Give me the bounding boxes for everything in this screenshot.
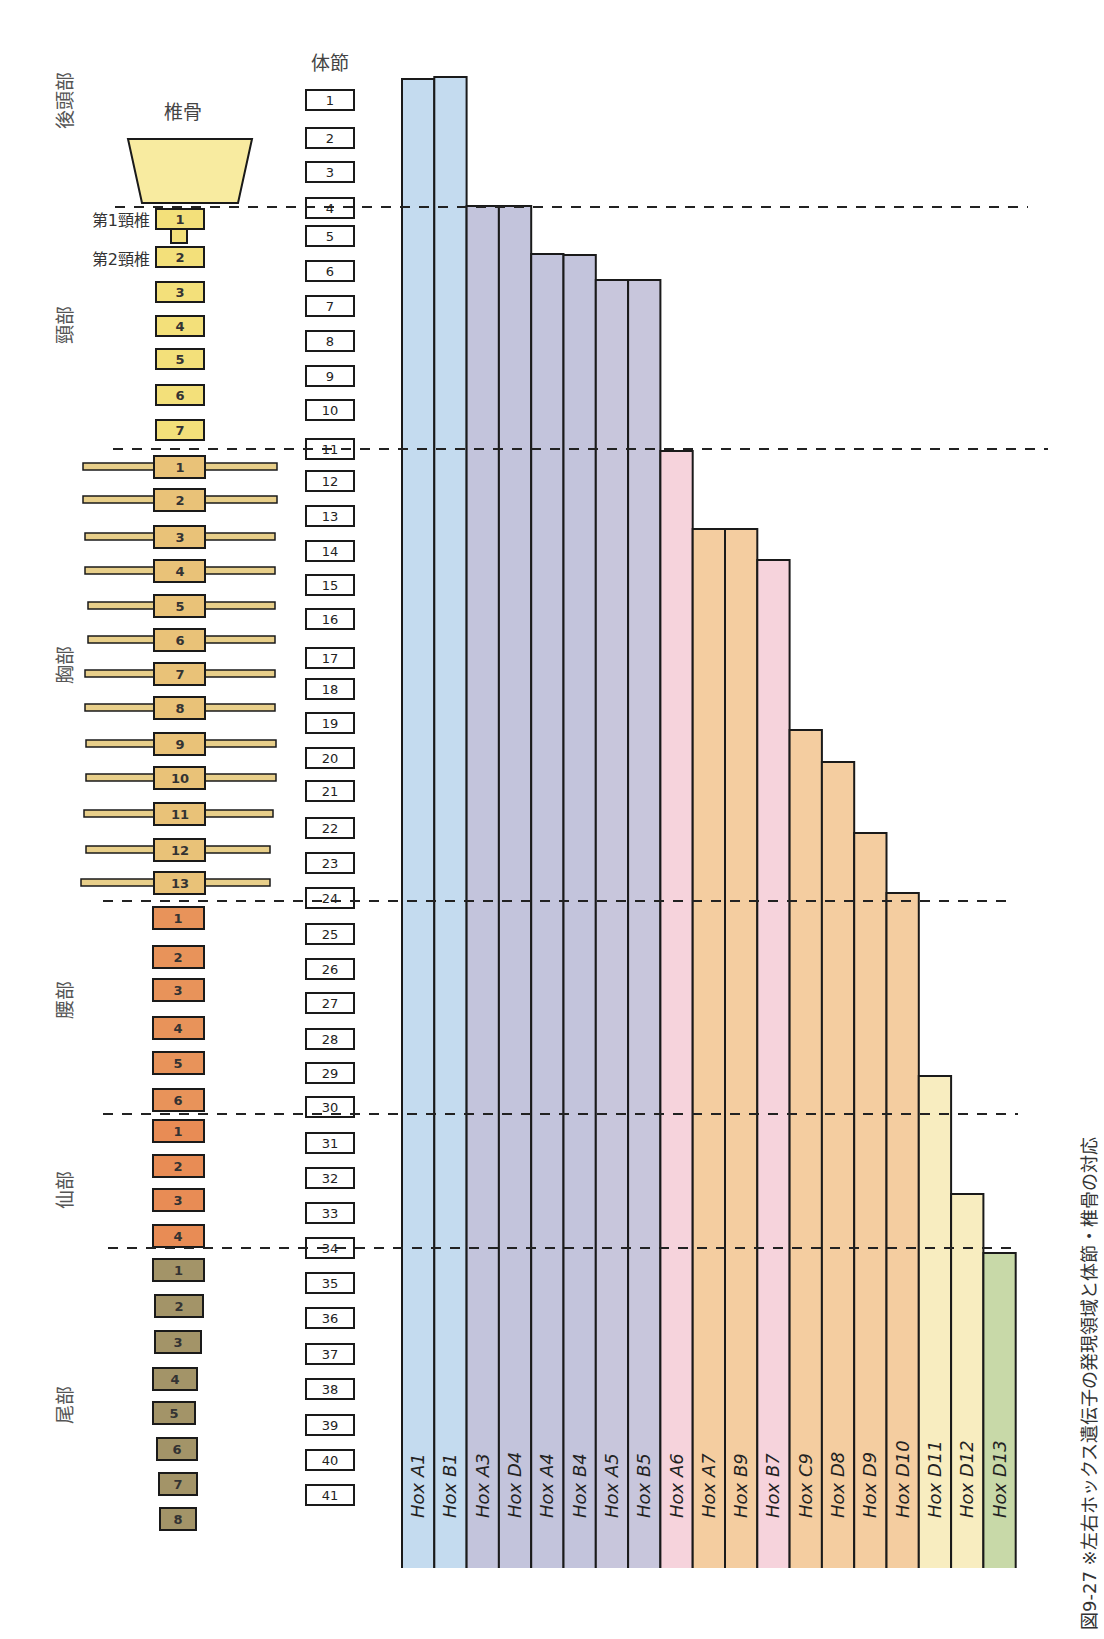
segment-number: 39 (322, 1418, 339, 1433)
sacral-vertebra: 2 (153, 1155, 204, 1177)
segment-number: 9 (326, 369, 334, 384)
lumbar-vertebra: 2 (153, 946, 204, 968)
gene-label: Hox D10 (892, 1440, 913, 1518)
thoracic-vertebra: 11 (84, 803, 273, 825)
region-label: 後頭部 (54, 72, 76, 129)
vertebra-number: 2 (174, 1299, 183, 1314)
segment-box: 17 (306, 648, 354, 668)
gene-label: Hox B5 (633, 1453, 654, 1518)
vertebra-number: 7 (175, 423, 184, 438)
vertebra-number: 1 (173, 911, 182, 926)
vertebra-column: 1234567123456789101112131234561234123456… (81, 209, 277, 1530)
hox-bar: Hox D9 (854, 833, 886, 1568)
segment-box: 9 (306, 366, 354, 386)
segment-box: 32 (306, 1168, 354, 1188)
segment-box: 14 (306, 541, 354, 561)
vertebra-number: 5 (169, 1406, 178, 1421)
segment-box: 40 (306, 1450, 354, 1470)
vertebra-number: 12 (171, 843, 189, 858)
gene-label: Hox B1 (439, 1453, 460, 1518)
hox-bar: Hox A3 (467, 206, 499, 1568)
hox-bar: Hox D11 (919, 1076, 951, 1568)
vertebra-number: 2 (175, 250, 184, 265)
segment-number: 7 (326, 299, 334, 314)
gene-label: Hox D13 (989, 1440, 1010, 1518)
caudal-vertebra: 6 (157, 1438, 197, 1460)
thoracic-vertebra: 12 (86, 839, 270, 861)
caudal-vertebra: 2 (155, 1295, 203, 1317)
vertebra-number: 1 (175, 212, 184, 227)
cervical-vertebra: 1 (156, 209, 204, 243)
segment-number: 35 (322, 1276, 339, 1291)
hox-bars: Hox A1Hox B1Hox A3Hox D4Hox A4Hox B4Hox … (402, 77, 1016, 1568)
segment-number: 25 (322, 927, 339, 942)
segment-number: 19 (322, 716, 339, 731)
vertebra-number: 11 (171, 807, 189, 822)
hox-bar: Hox A6 (660, 451, 692, 1568)
segment-number: 8 (326, 334, 334, 349)
segment-number: 24 (322, 891, 339, 906)
gene-label: Hox B9 (730, 1453, 751, 1518)
segment-box: 2 (306, 128, 354, 148)
segment-number: 1 (326, 93, 334, 108)
vertebra-number: 4 (175, 319, 184, 334)
gene-label: Hox A3 (472, 1453, 493, 1518)
sacral-vertebra: 3 (153, 1189, 204, 1211)
thoracic-vertebra: 7 (85, 663, 275, 685)
segment-box: 27 (306, 993, 354, 1013)
sacral-vertebra: 1 (153, 1120, 204, 1142)
gene-label: Hox C9 (795, 1453, 816, 1518)
vertebra-number: 4 (173, 1021, 182, 1036)
region-label: 仙部 (54, 1171, 76, 1209)
segment-number: 37 (322, 1347, 339, 1362)
segment-box: 18 (306, 679, 354, 699)
caudal-vertebra: 1 (153, 1259, 204, 1281)
thoracic-vertebra: 1 (83, 456, 277, 478)
gene-label: Hox A6 (666, 1453, 687, 1518)
vertebra-number: 3 (175, 285, 184, 300)
segment-box: 23 (306, 853, 354, 873)
caudal-vertebra: 5 (153, 1402, 195, 1424)
segment-box: 10 (306, 400, 354, 420)
gene-label: Hox B4 (569, 1453, 590, 1518)
thoracic-vertebra: 5 (88, 595, 275, 617)
segment-number: 41 (322, 1488, 339, 1503)
occipital-bone (128, 139, 252, 203)
vertebra-number: 3 (173, 983, 182, 998)
hox-bar: Hox B7 (757, 560, 789, 1568)
caudal-vertebra: 7 (159, 1473, 197, 1495)
vertebra-column-header: 椎骨 (164, 101, 202, 123)
segment-box: 3 (306, 162, 354, 182)
cervical-vertebra: 6 (156, 385, 204, 405)
gene-label: Hox A7 (698, 1453, 719, 1518)
caudal-vertebra: 8 (160, 1508, 196, 1530)
segment-box: 38 (306, 1379, 354, 1399)
segment-column: 1234567891011121314151617181920212223242… (306, 90, 354, 1505)
segment-number: 20 (322, 751, 339, 766)
hox-expression-diagram: 椎骨 体節 後頭部頸部胸部腰部仙部尾部 第1頸椎 第2頸椎 1234567123… (0, 0, 1104, 1639)
hox-bar: Hox A4 (531, 254, 563, 1568)
segment-box: 41 (306, 1485, 354, 1505)
segment-number: 26 (322, 962, 339, 977)
segment-box: 35 (306, 1273, 354, 1293)
caudal-vertebra: 4 (153, 1368, 197, 1390)
segment-number: 21 (322, 784, 339, 799)
segment-box: 13 (306, 506, 354, 526)
segment-box: 29 (306, 1063, 354, 1083)
segment-box: 7 (306, 296, 354, 316)
column-headers: 椎骨 体節 (164, 52, 349, 123)
region-labels: 後頭部頸部胸部腰部仙部尾部 (54, 72, 76, 1425)
segment-box: 5 (306, 226, 354, 246)
hox-bar: Hox B4 (564, 255, 596, 1568)
vertebra-number: 10 (171, 771, 189, 786)
segment-box: 21 (306, 781, 354, 801)
segment-number: 3 (326, 165, 334, 180)
figure-caption: 図9-27 ※左右ホックス遺伝子の発現領域と体節・椎骨の対応 (1079, 1137, 1100, 1630)
segment-number: 18 (322, 682, 339, 697)
cervical-vertebra: 2 (156, 247, 204, 267)
vertebra-number: 3 (175, 530, 184, 545)
gene-label: Hox D8 (827, 1452, 848, 1518)
gene-label: Hox B7 (762, 1453, 783, 1518)
segment-number: 2 (326, 131, 334, 146)
region-label: 腰部 (54, 981, 76, 1019)
